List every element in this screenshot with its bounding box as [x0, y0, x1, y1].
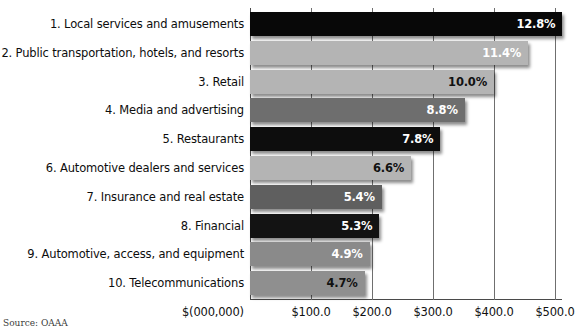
chart-row: 5. Restaurants7.8%	[0, 127, 576, 151]
bar-value-label: 8.8%	[427, 103, 465, 117]
chart-row: 3. Retail10.0%	[0, 70, 576, 94]
bar-value-label: 12.8%	[516, 17, 562, 31]
chart-row: 7. Insurance and real estate5.4%	[0, 185, 576, 209]
category-label: 9. Automotive, access, and equipment	[0, 242, 244, 266]
bar-value-label: 6.6%	[373, 161, 411, 175]
category-label: 7. Insurance and real estate	[0, 185, 244, 209]
bar-container: 4.9%	[250, 242, 370, 266]
bar-value-label: 11.4%	[482, 46, 528, 60]
x-axis-line	[250, 299, 562, 300]
bar-container: 7.8%	[250, 127, 440, 151]
chart-row: 6. Automotive dealers and services6.6%	[0, 156, 576, 180]
category-label: 1. Local services and amusements	[0, 12, 244, 36]
category-label: 2. Public transportation, hotels, and re…	[0, 41, 244, 65]
horizontal-bar-chart: 1. Local services and amusements12.8%2. …	[0, 0, 576, 330]
bar-value-label: 4.7%	[327, 276, 365, 290]
bar-container: 10.0%	[250, 70, 494, 94]
x-tick-label: $100.0	[291, 305, 330, 319]
bar[interactable]: 6.6%	[250, 156, 411, 180]
chart-row: 4. Media and advertising8.8%	[0, 98, 576, 122]
category-label: 6. Automotive dealers and services	[0, 156, 244, 180]
bar[interactable]: 7.8%	[250, 127, 440, 151]
bar[interactable]: 4.9%	[250, 242, 370, 266]
chart-row: 8. Financial5.3%	[0, 214, 576, 238]
x-tick-label: $200.0	[352, 305, 391, 319]
category-label: 5. Restaurants	[0, 127, 244, 151]
bar[interactable]: 10.0%	[250, 70, 494, 94]
source-note: Source: OAAA	[3, 318, 68, 328]
chart-row: 9. Automotive, access, and equipment4.9%	[0, 242, 576, 266]
bar[interactable]: 4.7%	[250, 271, 365, 295]
chart-row: 2. Public transportation, hotels, and re…	[0, 41, 576, 65]
category-label: 10. Telecommunications	[0, 271, 244, 295]
bar-container: 8.8%	[250, 98, 465, 122]
bar[interactable]: 11.4%	[250, 41, 528, 65]
bar-container: 5.3%	[250, 214, 379, 238]
category-label: 3. Retail	[0, 70, 244, 94]
bar-container: 6.6%	[250, 156, 411, 180]
bar-container: 5.4%	[250, 185, 382, 209]
bar-value-label: 5.3%	[341, 219, 379, 233]
bar[interactable]: 8.8%	[250, 98, 465, 122]
bar-value-label: 4.9%	[331, 247, 369, 261]
bar-container: 4.7%	[250, 271, 365, 295]
chart-row: 1. Local services and amusements12.8%	[0, 12, 576, 36]
category-label: 4. Media and advertising	[0, 98, 244, 122]
category-label: 8. Financial	[0, 214, 244, 238]
chart-row: 10. Telecommunications4.7%	[0, 271, 576, 295]
bar-value-label: 7.8%	[402, 132, 440, 146]
bar-container: 12.8%	[250, 12, 562, 36]
bar[interactable]: 5.3%	[250, 214, 379, 238]
x-tick-label: $300.0	[413, 305, 452, 319]
x-tick-label: $500.0	[535, 305, 574, 319]
bar[interactable]: 12.8%	[250, 12, 562, 36]
bar-container: 11.4%	[250, 41, 528, 65]
x-tick-label: $400.0	[474, 305, 513, 319]
bar-value-label: 10.0%	[448, 75, 494, 89]
bar-value-label: 5.4%	[344, 190, 382, 204]
x-axis-unit-label: $(000,000)	[182, 305, 244, 319]
bar[interactable]: 5.4%	[250, 185, 382, 209]
